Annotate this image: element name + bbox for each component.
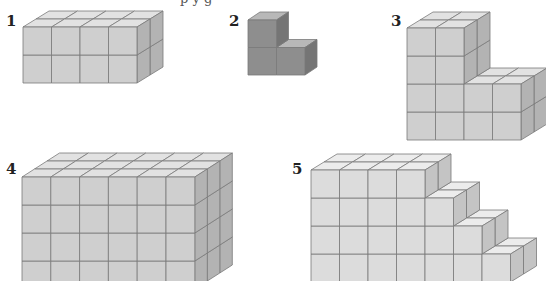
figure-2-l-shape [248,12,317,75]
figure-4-large-block [22,153,232,281]
figure-3-step [407,12,546,140]
cube-figures-diagram: p y g 1 2 3 4 5 [0,0,546,281]
cube-drawings [0,0,546,281]
figure-1-block [23,11,163,83]
figure-5-staircase [311,154,537,281]
